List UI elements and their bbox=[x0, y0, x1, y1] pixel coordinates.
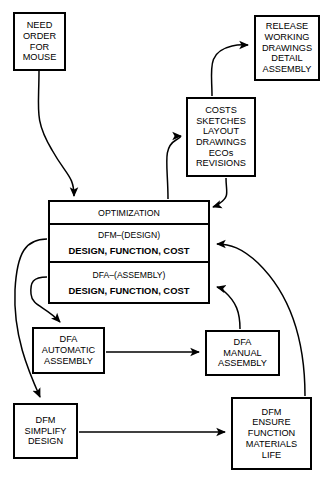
edge-dfa-manual-to-center bbox=[217, 287, 240, 329]
node-line: ECOs bbox=[209, 148, 234, 159]
optimization-label: OPTIMIZATION bbox=[98, 208, 160, 218]
node-line: AUTOMATIC bbox=[42, 345, 95, 356]
dfa-title: DFA–(ASSEMBLY) bbox=[93, 270, 166, 280]
node-dfa-automatic-assembly[interactable]: DFA AUTOMATIC ASSEMBLY bbox=[32, 327, 105, 374]
node-line: DFA bbox=[60, 334, 78, 345]
section-dfa-assembly[interactable]: DFA–(ASSEMBLY) DESIGN, FUNCTION, COST bbox=[50, 263, 208, 302]
node-costs-sketches-layout[interactable]: COSTS SKETCHES LAYOUT DRAWINGS ECOs REVI… bbox=[186, 97, 256, 177]
node-line: FOR bbox=[30, 42, 49, 53]
node-line: DRAWINGS bbox=[262, 43, 312, 54]
dfm-subtitle: DESIGN, FUNCTION, COST bbox=[69, 245, 190, 256]
node-dfa-manual-assembly[interactable]: DFA MANUAL ASSEMBLY bbox=[205, 330, 280, 376]
node-line: DFM bbox=[262, 407, 282, 418]
node-line: WORKING bbox=[265, 32, 310, 43]
node-line: ORDER bbox=[23, 31, 56, 42]
node-line: LAYOUT bbox=[203, 126, 239, 137]
node-line: DFM bbox=[36, 415, 56, 426]
node-line: SIMPLIFY bbox=[25, 426, 67, 437]
dfm-title: DFM–(DESIGN) bbox=[98, 230, 160, 240]
edge-costs-to-release bbox=[211, 45, 248, 96]
flowchart-diagram: NEED ORDER FOR MOUSE RELEASE WORKING DRA… bbox=[0, 0, 330, 483]
node-line: DRAWINGS bbox=[196, 137, 246, 148]
edge-need-to-optimization bbox=[38, 71, 74, 196]
node-line: FUNCTION bbox=[248, 428, 295, 439]
dfa-subtitle: DESIGN, FUNCTION, COST bbox=[69, 285, 190, 296]
node-dfm-simplify-design[interactable]: DFM SIMPLIFY DESIGN bbox=[13, 403, 78, 459]
node-line: DFA bbox=[234, 337, 252, 348]
node-line: ASSEMBLY bbox=[44, 356, 93, 367]
node-release-working-drawings[interactable]: RELEASE WORKING DRAWINGS DETAIL ASSEMBLY bbox=[254, 15, 320, 81]
section-optimization[interactable]: OPTIMIZATION bbox=[50, 202, 208, 225]
node-line: DESIGN bbox=[28, 436, 63, 447]
node-line: MOUSE bbox=[23, 52, 57, 63]
node-line: COSTS bbox=[205, 105, 237, 116]
node-dfm-ensure-function[interactable]: DFM ENSURE FUNCTION MATERIALS LIFE bbox=[231, 397, 312, 470]
node-line: MATERIALS bbox=[246, 439, 297, 450]
edge-costs-to-center bbox=[213, 178, 227, 207]
section-dfm-design[interactable]: DFM–(DESIGN) DESIGN, FUNCTION, COST bbox=[50, 225, 208, 263]
node-line: MANUAL bbox=[223, 348, 261, 359]
edge-center-to-costs bbox=[167, 136, 181, 199]
node-line: LIFE bbox=[262, 450, 281, 461]
node-line: REVISIONS bbox=[196, 158, 246, 169]
node-line: NEED bbox=[27, 20, 53, 31]
node-line: SKETCHES bbox=[196, 116, 246, 127]
node-line: RELEASE bbox=[266, 21, 308, 32]
node-line: ENSURE bbox=[252, 417, 290, 428]
node-optimization-dfm-dfa[interactable]: OPTIMIZATION DFM–(DESIGN) DESIGN, FUNCTI… bbox=[48, 200, 210, 304]
node-line: ASSEMBLY bbox=[218, 358, 267, 369]
node-line: ASSEMBLY bbox=[263, 64, 312, 75]
node-need-order-for-mouse[interactable]: NEED ORDER FOR MOUSE bbox=[13, 12, 66, 71]
node-line: DETAIL bbox=[271, 53, 302, 64]
